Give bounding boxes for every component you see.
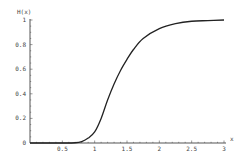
x-tick-label: 1: [93, 145, 97, 152]
x-tick-label: 2: [158, 145, 162, 152]
axes: [30, 19, 226, 143]
x-axis-label: x: [230, 135, 234, 142]
y-tick-label: 0.2: [15, 114, 26, 121]
chart: 0.511.522.53 00.20.40.60.81 x H(x): [0, 0, 243, 155]
y-tick-label: 1: [22, 16, 26, 23]
x-tick-label: 2.5: [186, 145, 197, 152]
series-line-h: [30, 20, 224, 143]
x-tick-label: 0.5: [57, 145, 68, 152]
x-ticks: 0.511.522.53: [36, 141, 226, 153]
x-tick-label: 3: [222, 145, 226, 152]
x-tick-label: 1.5: [122, 145, 133, 152]
y-tick-label: 0.6: [15, 65, 26, 72]
y-tick-label: 0.8: [15, 41, 26, 48]
y-tick-label: 0.4: [15, 90, 26, 97]
y-tick-label: 0: [22, 139, 26, 146]
y-axis-label: H(x): [17, 8, 31, 15]
